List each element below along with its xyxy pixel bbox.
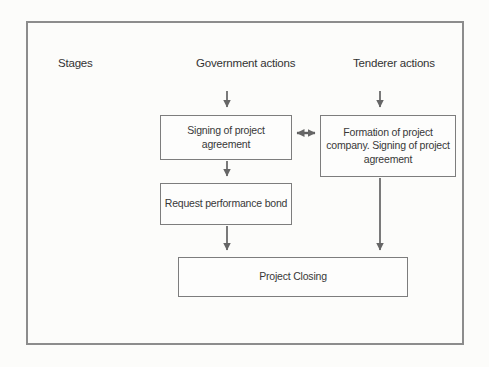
column-header-stages: Stages xyxy=(58,57,93,69)
diagram-canvas: Stages Government actions Tenderer actio… xyxy=(0,0,489,367)
column-header-tenderer-actions: Tenderer actions xyxy=(353,57,435,69)
node-request-performance-bond: Request performance bond xyxy=(160,183,292,225)
node-project-closing: Project Closing xyxy=(178,257,408,297)
node-signing-of-project-agreement: Signing of project agreement xyxy=(160,115,292,160)
node-formation-of-project-company: Formation of project company. Signing of… xyxy=(320,115,456,177)
column-header-government-actions: Government actions xyxy=(196,57,295,69)
